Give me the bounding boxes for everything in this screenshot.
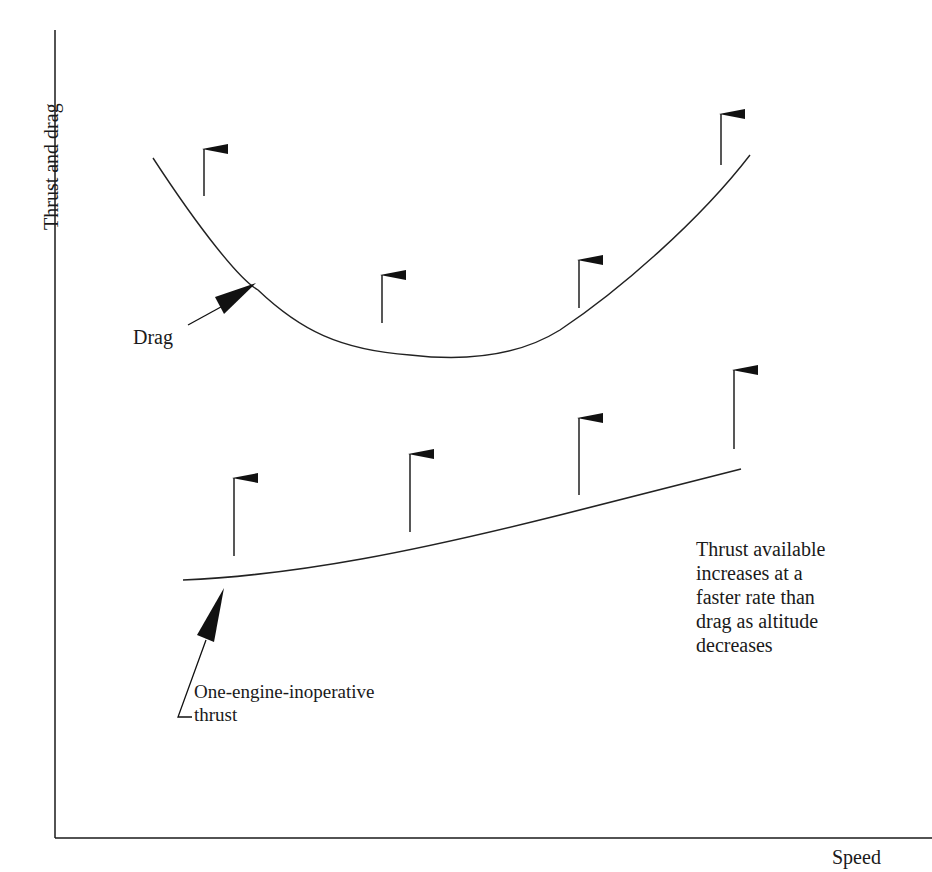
thrust-drag-diagram <box>0 0 932 872</box>
drag-callout-arrow-icon <box>188 283 256 325</box>
x-axis-label: Speed <box>832 846 881 869</box>
drag-label: Drag <box>133 326 173 349</box>
drag-curve <box>153 155 750 358</box>
y-axis-label: Thrust and drag <box>40 103 63 230</box>
thrust-rate-note: Thrust available increases at a faster r… <box>696 537 825 657</box>
drag-shift-arrows <box>204 114 721 323</box>
one-engine-inoperative-thrust-label: One-engine-inoperative thrust <box>194 680 374 726</box>
thrust-curve <box>183 469 741 580</box>
thrust-shift-arrows <box>234 370 734 556</box>
